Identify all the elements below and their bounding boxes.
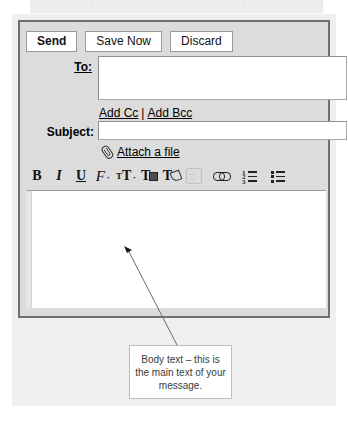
attach-file-link[interactable]: Attach a file — [117, 145, 180, 159]
formatting-toolbar: B I U F· TT· T T 1 2 3 — [26, 164, 326, 188]
annotation-text: Body text – this is the main text of you… — [134, 353, 227, 392]
discard-button[interactable]: Discard — [170, 31, 233, 52]
body-gutter — [26, 191, 32, 308]
bulleted-list-icon[interactable] — [267, 165, 289, 187]
italic-icon[interactable]: I — [48, 165, 70, 187]
add-cc-link[interactable]: Add Cc — [99, 106, 138, 120]
attach-file-row[interactable]: Attach a file — [99, 144, 180, 160]
subject-field-label: Subject: — [24, 125, 94, 139]
send-button[interactable]: Send — [26, 31, 77, 52]
message-body-area[interactable] — [26, 190, 326, 308]
save-now-button[interactable]: Save Now — [85, 31, 162, 52]
paperclip-icon — [96, 142, 115, 161]
insert-link-icon[interactable] — [211, 165, 233, 187]
to-field-label[interactable]: To: — [38, 60, 92, 74]
bold-icon[interactable]: B — [26, 165, 48, 187]
subject-input[interactable] — [98, 121, 347, 140]
emoticon-icon[interactable] — [183, 165, 205, 187]
add-bcc-link[interactable]: Add Bcc — [147, 106, 192, 120]
compose-mail-window: Send Save Now Discard To: Add Cc|Add Bcc… — [18, 20, 330, 318]
to-input[interactable] — [98, 56, 347, 100]
text-highlight-icon[interactable]: T — [161, 165, 183, 187]
cc-bcc-links: Add Cc|Add Bcc — [99, 106, 192, 120]
numbered-list-icon[interactable]: 1 2 3 — [239, 165, 261, 187]
font-family-icon[interactable]: F· — [92, 165, 114, 187]
compose-action-bar: Send Save Now Discard — [26, 30, 233, 52]
text-color-icon[interactable]: T — [139, 165, 161, 187]
cut-off-top-band — [30, 0, 322, 13]
font-size-icon[interactable]: TT· — [114, 165, 139, 187]
annotation-callout: Body text – this is the main text of you… — [129, 345, 232, 399]
underline-icon[interactable]: U — [70, 165, 92, 187]
